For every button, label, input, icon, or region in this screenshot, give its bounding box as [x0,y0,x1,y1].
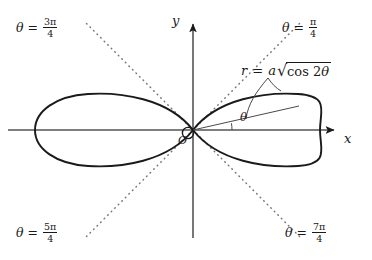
equation-lhs: r [241,63,247,78]
angle-theta-label: θ [240,112,247,124]
equals-sign: = [28,22,38,35]
fraction-numerator: 5π [43,222,57,234]
polar-curve-figure: θ = 3π 4 θ = π 4 θ = 5π 4 θ = 7π 4 y x [0,0,372,260]
equals-sign: = [297,227,307,240]
y-axis-label: y [172,14,179,27]
fraction-5pi-4: 5π 4 [43,222,57,245]
theta-symbol: θ [16,22,24,35]
ray-label-pi-4: θ = π 4 [282,17,317,40]
radical-sign: √ [277,63,287,80]
theta-symbol: θ [16,227,24,240]
radicand-function: cos 2 [287,64,321,79]
theta-symbol: θ [285,227,293,240]
fraction-denominator: 4 [309,28,317,39]
fraction-numerator: 3π [43,17,57,29]
theta-symbol: θ [282,22,290,35]
x-axis-label: x [344,132,351,145]
radicand: cos 2θ [286,62,331,79]
origin-label: O [178,135,187,146]
fraction-denominator: 4 [46,233,54,244]
ray-label-7pi-4: θ = 7π 4 [285,222,326,245]
ray-label-3pi-4: θ = 3π 4 [16,17,57,40]
fraction-numerator: 7π [312,222,326,234]
equals-sign: = [28,227,38,240]
angle-arc [231,123,232,130]
square-root-group: √ cos 2θ [277,62,331,79]
fraction-pi-4: π 4 [309,17,317,40]
curve-equation-label: r = a √ cos 2θ [241,62,331,79]
ray-label-5pi-4: θ = 5π 4 [16,222,57,245]
fraction-numerator: π [309,17,317,29]
fraction-denominator: 4 [315,233,323,244]
fraction-denominator: 4 [46,28,54,39]
equals-sign: = [294,22,304,35]
fraction-3pi-4: 3π 4 [43,17,57,40]
fraction-7pi-4: 7π 4 [312,222,326,245]
equation-equals-sign: = [252,63,263,78]
equation-coefficient: a [268,63,276,78]
radicand-angle: θ [321,64,329,79]
